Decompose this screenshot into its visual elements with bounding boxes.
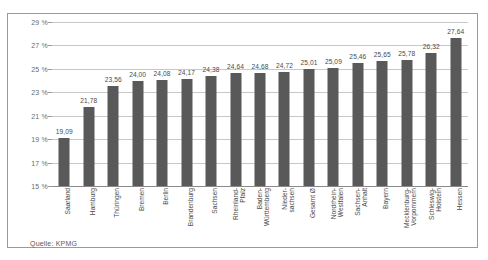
x-axis-category-label: Thüringen [113,188,120,218]
bar-value-label: 25,01 [300,59,317,66]
bar-value-label: 24,08 [154,70,171,77]
bar-column: 24,68 [248,22,272,186]
bar [279,72,290,186]
bar-value-label: 24,64 [227,63,244,70]
bar-column: 21,78 [76,22,100,186]
bar-value-label: 26,32 [423,43,440,50]
x-axis-category-label: Rheinland-Pfalz [232,188,247,220]
bar-value-label: 25,09 [325,58,342,65]
bar-column: 27,64 [444,22,468,186]
plot-area: 29 %27 %25 %23 %21 %19 %17 %15 % 19,0921… [52,22,468,186]
bar-column: 25,46 [346,22,370,186]
bar-column: 25,09 [321,22,345,186]
chart-frame: 29 %27 %25 %23 %21 %19 %17 %15 % 19,0921… [7,13,478,248]
x-axis-category-label: Nieder-sachsen [281,188,296,213]
bar [328,68,339,186]
x-axis-category-labels: SaarlandHamburgThüringenBremenBerlinBran… [52,188,468,254]
x-axis-category-label: Berlin [162,188,169,205]
y-axis-tick-label: 19 % [31,136,48,143]
bar [59,138,70,186]
x-axis-category-label: Saarland [64,188,71,214]
bar-value-label: 24,38 [203,66,220,73]
y-axis-tick-mark [48,186,52,187]
x-axis-category-label: Sachsen-Anhalt [354,188,369,216]
bar [377,61,388,186]
bar [401,60,412,186]
bar-column: 24,38 [199,22,223,186]
bar [450,38,461,186]
y-axis-tick-label: 29 % [31,19,48,26]
x-axis-category-label: Schleswig-Holstein [428,188,443,220]
bar [157,80,168,186]
bar-value-label: 24,68 [251,63,268,70]
bar-column: 24,17 [174,22,198,186]
bar [108,86,119,186]
y-axis-tick-label: 21 % [31,112,48,119]
y-axis-tick-label: 27 % [31,42,48,49]
source-note: Quelle: KPMG [30,240,77,247]
bar [352,63,363,186]
x-axis-category-label: Hessen [456,188,463,210]
bar-value-label: 19,09 [56,128,73,135]
bar-series: 19,0921,7823,5624,0024,0824,1724,3824,64… [52,22,468,186]
bar [254,73,265,186]
bar-value-label: 24,17 [178,69,195,76]
bar-value-label: 24,72 [276,62,293,69]
x-axis-category-label: Nordrhein-Westfalen [330,188,345,219]
bar-value-label: 25,46 [349,53,366,60]
bar-column: 25,65 [370,22,394,186]
x-axis-category-label: Gesamt Ø [309,188,316,218]
bar-value-label: 24,00 [129,71,146,78]
bar-column: 26,32 [419,22,443,186]
x-axis-category-label: Bremen [138,188,145,211]
bar-value-label: 23,56 [105,76,122,83]
bar-value-label: 25,78 [398,50,415,57]
bar [83,107,94,186]
y-axis-tick-label: 25 % [31,65,48,72]
bar [230,73,241,186]
bar [181,79,192,186]
bar-value-label: 27,64 [447,28,464,35]
x-axis-category-label: Brandenburg [187,188,194,226]
x-axis-category-label: Baden-Württemberg [256,188,271,226]
bar-column: 25,01 [297,22,321,186]
bar-column: 24,00 [125,22,149,186]
x-axis-category-label: Hamburg [89,188,96,215]
y-axis-tick-label: 17 % [31,159,48,166]
bar-column: 25,78 [395,22,419,186]
bar [206,76,217,186]
bar-column: 24,64 [223,22,247,186]
bar [426,53,437,186]
bar-value-label: 25,65 [374,51,391,58]
y-axis-tick-label: 15 % [31,183,48,190]
bar-column: 19,09 [52,22,76,186]
x-axis-category-label: Sachsen [211,188,218,214]
bar-value-label: 21,78 [80,97,97,104]
bar [132,81,143,186]
x-axis-category-label: Bayern [382,188,389,209]
bar-column: 24,08 [150,22,174,186]
y-axis-tick-label: 23 % [31,89,48,96]
bar [303,69,314,186]
bar-column: 24,72 [272,22,296,186]
x-axis-category-label: Mecklenburg-Vorpommern [403,188,418,228]
bar-column: 23,56 [101,22,125,186]
